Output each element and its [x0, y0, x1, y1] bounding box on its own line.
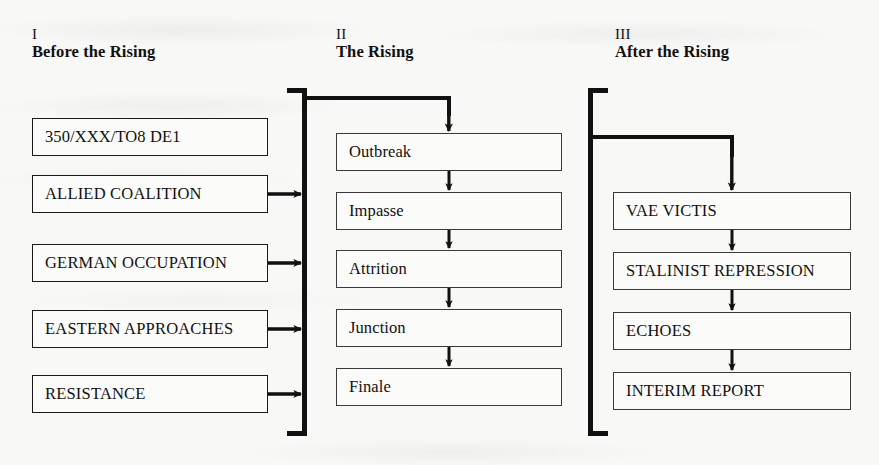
diagram-layer: I Before the Rising II The Rising III Af… [0, 0, 879, 465]
arrow-layer [0, 0, 879, 465]
flowchart-page: I Before the Rising II The Rising III Af… [0, 0, 879, 465]
